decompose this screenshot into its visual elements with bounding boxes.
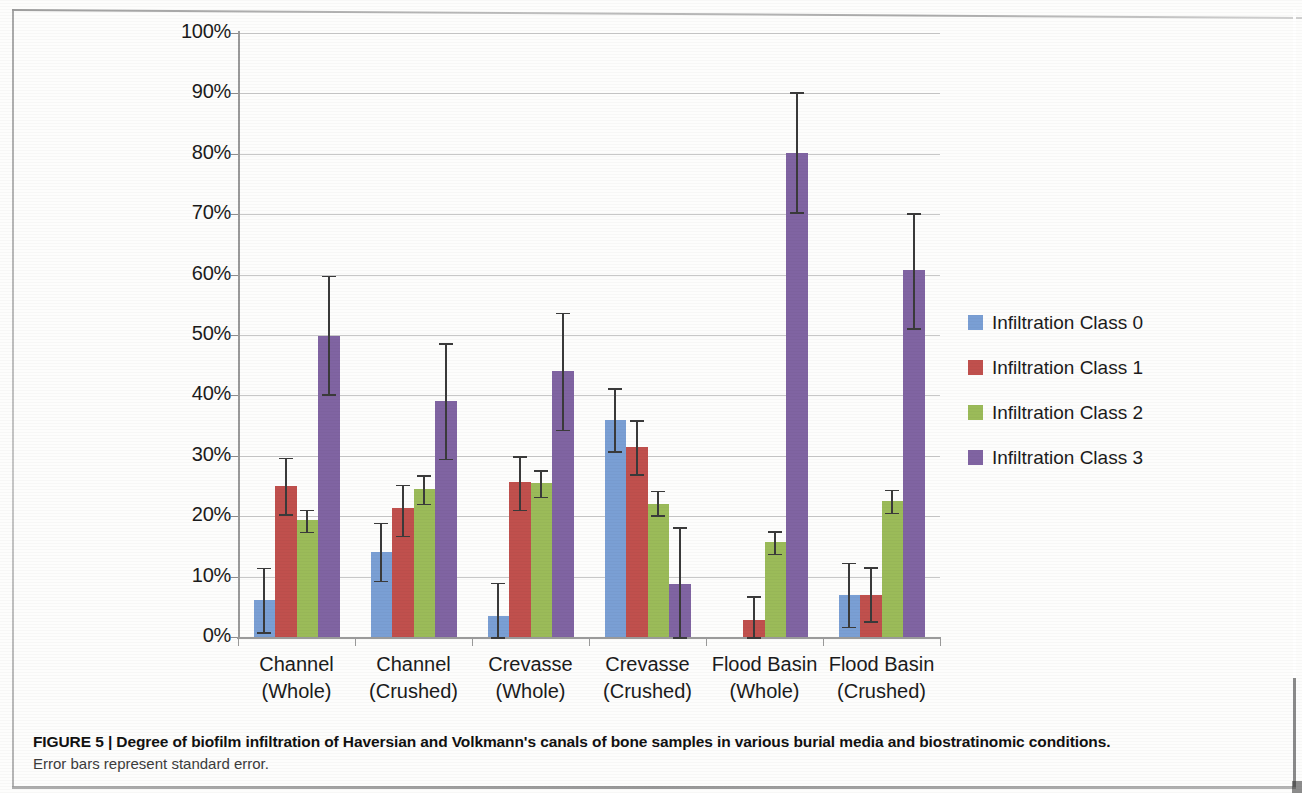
error-bar-cap-lower bbox=[491, 637, 505, 639]
x-axis-group-tick bbox=[355, 637, 356, 646]
bar[interactable] bbox=[648, 504, 670, 637]
bar-group bbox=[706, 33, 823, 637]
error-bar bbox=[891, 490, 893, 513]
legend-swatch-icon bbox=[968, 450, 983, 465]
x-axis-category-label: Crevasse(Crushed) bbox=[589, 651, 706, 705]
error-bar bbox=[636, 420, 638, 474]
error-bar bbox=[423, 475, 425, 503]
bar-group bbox=[355, 33, 472, 637]
error-bar-cap-lower bbox=[885, 513, 899, 515]
error-bar-cap-lower bbox=[300, 532, 314, 534]
error-bar bbox=[445, 343, 447, 458]
bar[interactable] bbox=[414, 489, 436, 637]
error-bar bbox=[796, 92, 798, 212]
legend-item[interactable]: Infiltration Class 3 bbox=[968, 435, 1268, 480]
caption-title-text: Degree of biofilm infiltration of Havers… bbox=[116, 733, 1110, 750]
error-bar bbox=[497, 583, 499, 637]
error-bar-cap-upper bbox=[534, 470, 548, 472]
y-axis-tick-label: 30% bbox=[145, 443, 231, 466]
legend-swatch-icon bbox=[968, 315, 983, 330]
error-bar-cap-upper bbox=[396, 485, 410, 487]
error-bar-cap-lower bbox=[790, 212, 804, 214]
x-axis-end-tick bbox=[940, 637, 941, 646]
error-bar bbox=[870, 567, 872, 621]
legend-item[interactable]: Infiltration Class 1 bbox=[968, 345, 1268, 390]
error-bar bbox=[285, 458, 287, 515]
bar[interactable] bbox=[786, 153, 808, 637]
error-bar-cap-lower bbox=[257, 632, 271, 634]
x-axis-label-line: (Crushed) bbox=[355, 678, 472, 705]
error-bar-cap-upper bbox=[790, 92, 804, 94]
legend-item-label: Infiltration Class 1 bbox=[992, 357, 1143, 379]
legend-item[interactable]: Infiltration Class 2 bbox=[968, 390, 1268, 435]
bar-group bbox=[238, 33, 355, 637]
error-bar-cap-lower bbox=[907, 328, 921, 330]
x-axis-group-tick bbox=[823, 637, 824, 646]
error-bar-cap-lower bbox=[747, 637, 761, 639]
caption-title-line: FIGURE 5 | Degree of biofilm infiltratio… bbox=[33, 731, 1263, 752]
bar-group bbox=[823, 33, 940, 637]
bar[interactable] bbox=[765, 542, 787, 637]
y-axis-tick-label: 20% bbox=[145, 503, 231, 526]
x-axis-category-label: Channel(Whole) bbox=[238, 651, 355, 705]
error-bar bbox=[679, 527, 681, 637]
bars-layer bbox=[238, 33, 940, 637]
legend-item-label: Infiltration Class 0 bbox=[992, 312, 1143, 334]
y-axis-tick-label: 80% bbox=[145, 141, 231, 164]
y-axis-labels: 0%10%20%30%40%50%60%70%80%90%100% bbox=[135, 0, 231, 718]
x-axis-category-label: Flood Basin(Crushed) bbox=[823, 651, 940, 705]
y-axis-tick-label: 60% bbox=[145, 262, 231, 285]
error-bar-cap-upper bbox=[864, 567, 878, 569]
error-bar-cap-lower bbox=[768, 554, 782, 556]
x-axis-label-line: Channel bbox=[355, 651, 472, 678]
x-axis-category-label: Flood Basin(Whole) bbox=[706, 651, 823, 705]
scan-page-edge-bottom bbox=[12, 786, 1296, 789]
caption-subtitle: Error bars represent standard error. bbox=[33, 753, 1263, 774]
error-bar bbox=[402, 485, 404, 536]
x-axis-label-line: (Crushed) bbox=[823, 678, 940, 705]
bar[interactable] bbox=[531, 483, 553, 637]
error-bar-cap-lower bbox=[864, 621, 878, 623]
x-axis-label-line: Flood Basin bbox=[706, 651, 823, 678]
x-axis-end-tick bbox=[238, 637, 239, 646]
x-axis-group-tick bbox=[589, 637, 590, 646]
y-axis-tick-label: 70% bbox=[145, 201, 231, 224]
error-bar bbox=[848, 563, 850, 627]
error-bar bbox=[562, 313, 564, 430]
error-bar-cap-lower bbox=[279, 514, 293, 516]
bar-group bbox=[589, 33, 706, 637]
y-axis-tick-label: 90% bbox=[145, 80, 231, 103]
error-bar-cap-lower bbox=[396, 536, 410, 538]
error-bar bbox=[263, 568, 265, 633]
error-bar-cap-lower bbox=[842, 627, 856, 629]
error-bar bbox=[657, 491, 659, 515]
figure-page: 0%10%20%30%40%50%60%70%80%90%100% Channe… bbox=[0, 0, 1302, 793]
error-bar bbox=[519, 456, 521, 509]
error-bar-cap-upper bbox=[608, 388, 622, 390]
bar[interactable] bbox=[297, 520, 319, 637]
error-bar-cap-upper bbox=[300, 510, 314, 512]
y-axis-tick-label: 0% bbox=[145, 624, 231, 647]
error-bar-cap-upper bbox=[257, 568, 271, 570]
error-bar bbox=[328, 276, 330, 394]
error-bar-cap-upper bbox=[374, 523, 388, 525]
bar[interactable] bbox=[626, 447, 648, 637]
x-axis-label-line: (Whole) bbox=[706, 678, 823, 705]
bar-group bbox=[472, 33, 589, 637]
x-axis-label-line: Channel bbox=[238, 651, 355, 678]
error-bar-cap-lower bbox=[651, 515, 665, 517]
error-bar-cap-lower bbox=[556, 430, 570, 432]
error-bar-cap-upper bbox=[673, 527, 687, 529]
error-bar bbox=[614, 388, 616, 451]
legend-item[interactable]: Infiltration Class 0 bbox=[968, 300, 1268, 345]
x-axis-label-line: (Whole) bbox=[472, 678, 589, 705]
y-axis-tick-label: 50% bbox=[145, 322, 231, 345]
y-axis-tick-label: 10% bbox=[145, 564, 231, 587]
x-axis-category-label: Crevasse(Whole) bbox=[472, 651, 589, 705]
figure-caption: FIGURE 5 | Degree of biofilm infiltratio… bbox=[33, 731, 1263, 774]
error-bar bbox=[774, 531, 776, 553]
error-bar-cap-lower bbox=[608, 451, 622, 453]
error-bar-cap-lower bbox=[322, 394, 336, 396]
error-bar-cap-lower bbox=[673, 637, 687, 639]
bar[interactable] bbox=[882, 501, 904, 637]
